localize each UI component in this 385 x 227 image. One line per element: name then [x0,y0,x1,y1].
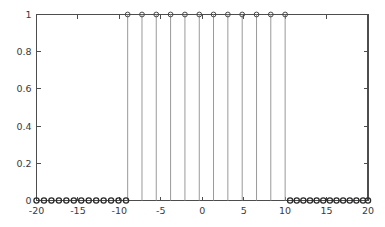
x-tick-label-8: 20 [362,205,374,216]
x-tick-label-5: 5 [241,205,247,216]
x-tick-label-1: -15 [70,205,86,216]
axis-frame [37,15,369,201]
x-tick-label-6: 10 [279,205,291,216]
x-tick-label-7: 15 [321,205,333,216]
x-tick-label-0: -20 [29,205,45,216]
x-tick-label-3: -5 [156,205,165,216]
y-tick-label-5: 1 [25,9,31,20]
x-tick-label-2: -10 [112,205,128,216]
y-tick-label-0: 0 [25,195,31,206]
y-tick-label-3: 0.6 [16,83,31,94]
figure-container: -20-15-10-50510152000.20.40.60.81 [0,0,385,227]
y-tick-label-2: 0.4 [16,121,31,132]
y-tick-label-1: 0.2 [16,158,31,169]
series-0 [34,12,371,203]
y-tick-label-4: 0.8 [16,46,31,57]
x-tick-label-4: 0 [199,205,205,216]
stem-plot: -20-15-10-50510152000.20.40.60.81 [0,0,385,227]
